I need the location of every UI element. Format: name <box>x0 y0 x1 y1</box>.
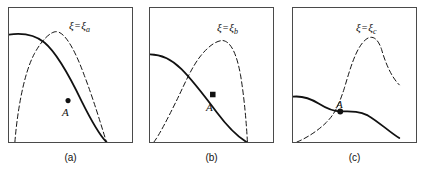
panel-c-subscript: c <box>373 27 377 36</box>
panel-b-subscript: b <box>234 27 238 36</box>
caption-c: (c) <box>292 152 417 163</box>
panel-a-subscript: a <box>86 25 90 34</box>
caption-b: (b) <box>149 152 274 163</box>
panel-a-solid-curve <box>9 34 106 142</box>
panel-a-point-marker <box>65 98 70 103</box>
figure-container: ξ=ξa A ξ=ξb A ξ=ξc A (a) (b) (c) <box>0 0 423 175</box>
panel-c-xi-annotation: ξ=ξc <box>356 21 377 36</box>
panel-c-point-label: A <box>336 98 343 110</box>
panel-b-solid-curve <box>150 54 246 142</box>
panel-a-point-label: A <box>62 106 69 118</box>
panel-a-dashed-curve <box>15 32 107 142</box>
panel-c-plot <box>293 8 416 142</box>
panel-a-xi-symbol: ξ <box>69 19 74 31</box>
panel-a-xi-annotation: ξ=ξa <box>69 19 90 34</box>
panel-b-plot <box>150 8 273 142</box>
caption-a: (a) <box>8 152 133 163</box>
panel-b: ξ=ξb A <box>149 7 274 143</box>
panel-b-xi-symbol: ξ <box>217 21 222 33</box>
panel-b-point-label: A <box>206 101 213 113</box>
panel-b-point-marker <box>210 92 216 98</box>
panel-b-xi-annotation: ξ=ξb <box>217 21 238 36</box>
panel-c-solid-curve <box>293 96 399 138</box>
panel-c-xi-symbol: ξ <box>356 21 361 33</box>
panel-c: ξ=ξc A <box>292 7 417 143</box>
panel-a: ξ=ξa A <box>8 7 133 143</box>
